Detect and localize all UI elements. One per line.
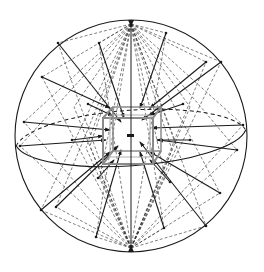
solid-arrow [42,77,110,108]
dashed-ray [131,24,221,62]
surface-point [98,42,101,45]
surface-point [163,227,166,230]
surface-point [189,139,192,142]
surface-point [71,139,74,142]
solid-arrow [140,33,166,108]
surface-point [57,42,60,45]
surface-point [205,61,208,64]
surface-point [41,76,44,79]
dashed-ray [96,237,131,248]
surface-point [182,103,185,106]
dashed-ray [20,146,131,248]
surface-point [219,192,222,195]
surface-point [55,206,58,209]
surface-point [205,225,208,228]
dashed-ray [41,210,131,248]
surface-point [169,181,172,184]
surface-point [165,32,168,35]
dashed-ray [131,24,206,226]
solid-arrow [24,122,110,130]
dashed-ray [20,24,131,146]
dashed-ray [131,226,206,248]
sphere-diagram [0,0,264,272]
solid-arrow [41,152,110,210]
solid-arrow [142,62,221,120]
surface-point [40,209,43,212]
solid-arrow [20,140,106,146]
dashed-ray [131,24,172,150]
dashed-ray [24,122,131,248]
surface-point [236,149,239,152]
surface-point [220,61,223,64]
surface-point [23,121,26,124]
solid-arrow [152,125,243,128]
dashed-ray [58,43,131,248]
dashed-ray [131,62,206,248]
dashed-ray [42,24,131,77]
surface-point [87,103,90,106]
surface-point [97,177,100,180]
surface-point [19,145,22,148]
center-point [127,134,134,137]
solid-arrow [150,62,206,108]
surface-point [95,236,98,239]
dashed-ray [131,24,206,62]
surface-point [242,124,245,127]
solid-arrow [158,140,237,150]
dashed-ray [58,24,131,43]
